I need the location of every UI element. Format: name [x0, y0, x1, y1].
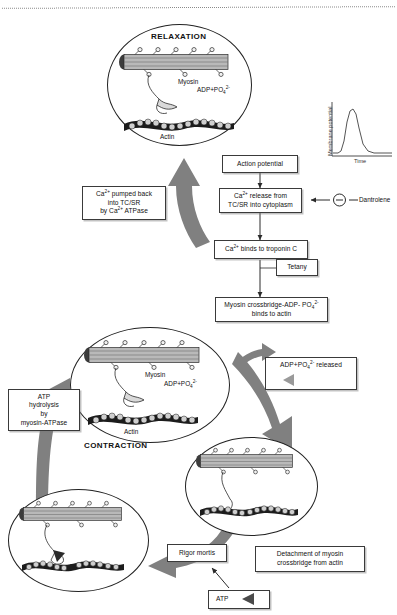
atp-triangle-icon — [242, 593, 254, 605]
box-detachment-text: Detachment of myosincrossbridge from act… — [277, 550, 344, 567]
rigor-cell-art — [0, 0, 397, 615]
box-atp-text: ATP — [216, 595, 228, 604]
box-detachment[interactable]: Detachment of myosincrossbridge from act… — [255, 546, 365, 572]
box-atp[interactable]: ATP — [208, 590, 270, 609]
box-rigor-mortis[interactable]: Rigor mortis — [167, 544, 227, 562]
diagram-canvas: RELAXATION — [0, 0, 397, 615]
